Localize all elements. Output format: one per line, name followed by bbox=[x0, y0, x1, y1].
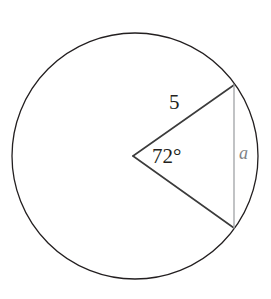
apothem-variable-label: a bbox=[239, 144, 248, 162]
geometry-canvas bbox=[0, 0, 271, 299]
sector-radius-upper-line bbox=[133, 85, 234, 156]
radius-length-label: 5 bbox=[169, 92, 180, 113]
circle-outline bbox=[12, 33, 258, 279]
geometry-figure: 5 72° a bbox=[0, 0, 271, 299]
central-angle-label: 72° bbox=[152, 146, 181, 167]
sector-radius-lower-line bbox=[133, 156, 234, 228]
